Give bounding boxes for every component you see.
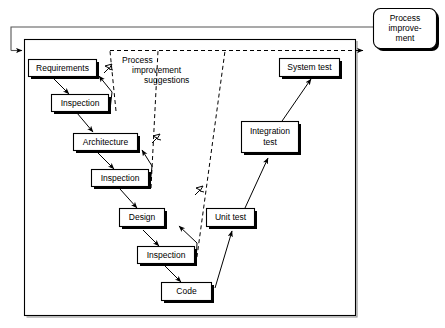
- node-design[interactable]: Design: [120, 209, 168, 230]
- edge-inspection3-to-code: [165, 266, 181, 282]
- edge-code-to-unit-test: [215, 231, 232, 288]
- node-integration-test[interactable]: Integration test: [242, 122, 302, 156]
- edge-unit-test-to-integration-test: [245, 158, 268, 208]
- node-label-process-improvement-3: ment: [396, 33, 416, 43]
- line-jump-icon-3: [195, 186, 204, 195]
- diagram-canvas: Process improvement suggestions: [0, 0, 445, 328]
- edge-integration-test-to-system-test: [280, 79, 311, 124]
- dashed-edge-inspection3-to-improvement: [196, 51, 225, 264]
- process-diagram: Process improvement suggestions: [0, 0, 445, 328]
- edge-requirements-to-inspection1: [53, 78, 69, 94]
- node-label-inspection-1: Inspection: [61, 98, 100, 108]
- node-label-system-test: System test: [287, 62, 332, 72]
- note-line-1: Process: [122, 55, 153, 65]
- node-label-unit-test: Unit test: [215, 212, 247, 222]
- node-label-inspection-3: Inspection: [147, 250, 186, 260]
- node-inspection-2[interactable]: Inspection: [92, 170, 152, 190]
- node-label-architecture: Architecture: [83, 137, 129, 147]
- edge-design-to-inspection3: [143, 230, 159, 246]
- edge-inspection1-to-architecture: [77, 113, 93, 132]
- node-process-improvement[interactable]: Process improve- ment: [374, 9, 440, 52]
- process-improvement-return-loop: [11, 27, 373, 51]
- node-requirements[interactable]: Requirements: [29, 60, 100, 80]
- note-line-3: suggestions: [144, 75, 189, 85]
- node-label-process-improvement-2: improve-: [388, 23, 421, 33]
- node-architecture[interactable]: Architecture: [74, 134, 141, 154]
- node-unit-test[interactable]: Unit test: [207, 209, 258, 230]
- edge-inspection2-to-design: [120, 189, 137, 208]
- node-label-code: Code: [176, 286, 197, 296]
- node-inspection-1[interactable]: Inspection: [52, 95, 112, 115]
- node-code[interactable]: Code: [162, 283, 215, 304]
- node-system-test[interactable]: System test: [280, 59, 343, 80]
- node-label-integration-test-2: test: [263, 137, 277, 147]
- note-line-2: improvement: [132, 65, 182, 75]
- node-label-integration-test-1: Integration: [250, 126, 290, 136]
- node-label-requirements: Requirements: [36, 63, 89, 73]
- node-inspection-3[interactable]: Inspection: [138, 247, 198, 267]
- node-label-design: Design: [129, 212, 156, 222]
- process-frame: [25, 40, 358, 318]
- node-label-inspection-2: Inspection: [101, 173, 140, 183]
- node-label-process-improvement-1: Process: [390, 13, 421, 23]
- edge-architecture-to-inspection2: [98, 153, 114, 169]
- process-improvement-suggestions-note: Process improvement suggestions: [122, 55, 189, 85]
